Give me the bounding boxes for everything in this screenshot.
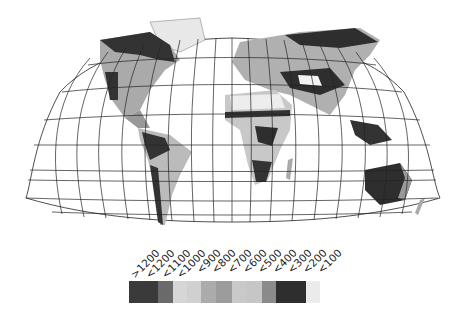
legend-swatch [247,281,262,303]
legend-swatch [201,281,216,303]
legend-swatch [216,281,232,303]
legend-swatches [129,281,320,303]
legend-swatch [129,281,158,303]
legend-labels: >1200 <1200 <1100 <1000 <900 <800 <700 <… [128,247,344,281]
legend-swatch [291,281,306,303]
legend-swatch [306,281,320,303]
world-map [0,0,464,240]
legend-swatch [276,281,291,303]
legend-swatch [158,281,173,303]
legend-swatch [173,281,187,303]
legend: >1200 <1200 <1100 <1000 <900 <800 <700 <… [0,225,464,315]
legend-swatch [232,281,247,303]
legend-swatch [262,281,276,303]
sahara [230,94,285,110]
legend-swatch [187,281,201,303]
